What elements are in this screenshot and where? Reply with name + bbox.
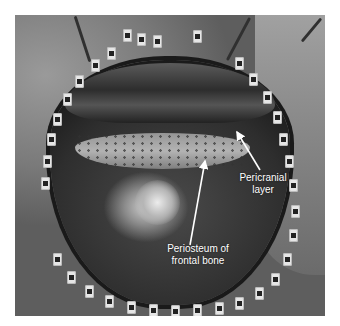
label-pericranial-layer: Pericranial layer bbox=[228, 172, 298, 196]
annotation-arrows bbox=[15, 15, 325, 316]
pericranial-arrow bbox=[237, 132, 260, 170]
label-line: layer bbox=[228, 184, 298, 196]
periosteum-arrow bbox=[190, 161, 205, 245]
label-periosteum-frontal-bone: Periosteum of frontal bone bbox=[153, 243, 243, 267]
label-line: Pericranial bbox=[228, 172, 298, 184]
label-line: frontal bone bbox=[153, 255, 243, 267]
label-line: Periosteum of bbox=[153, 243, 243, 255]
surgical-photo: Pericranial layer Periosteum of frontal … bbox=[15, 15, 325, 316]
